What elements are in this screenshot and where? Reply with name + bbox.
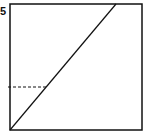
plot-frame [10,4,142,130]
diagonal-line [10,4,116,130]
diagram-figure [0,0,143,133]
